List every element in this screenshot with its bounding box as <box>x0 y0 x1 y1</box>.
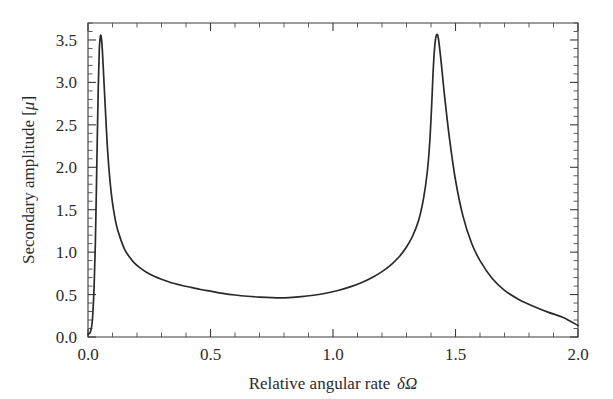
top-axis-ticks <box>88 23 578 31</box>
y-tick-label: 3.5 <box>56 31 77 50</box>
figure-container: 0.00.51.01.52.0 0.00.51.01.52.02.53.03.5… <box>0 0 613 399</box>
x-tick-label: 1.5 <box>445 345 466 364</box>
y-axis-major-ticks <box>88 40 96 337</box>
y-tick-label: 0.0 <box>56 328 77 347</box>
y-axis-tick-labels: 0.00.51.01.52.02.53.03.5 <box>56 31 77 347</box>
x-tick-label: 2.0 <box>567 345 588 364</box>
y-tick-label: 1.0 <box>56 243 77 262</box>
x-tick-label: 0.0 <box>77 345 98 364</box>
resonance-line-chart: 0.00.51.01.52.0 0.00.51.01.52.02.53.03.5… <box>0 0 613 399</box>
x-axis-tick-labels: 0.00.51.01.52.0 <box>77 345 588 364</box>
x-tick-label: 0.5 <box>200 345 221 364</box>
y-tick-label: 0.5 <box>56 286 77 305</box>
y-tick-label: 2.0 <box>56 158 77 177</box>
x-axis-title: Relative angular rate δΩ <box>249 374 418 393</box>
y-axis-title: Secondary amplitude [μ] <box>19 96 38 264</box>
data-series-group <box>88 34 578 334</box>
right-axis-ticks <box>570 23 578 337</box>
y-tick-label: 2.5 <box>56 116 77 135</box>
x-tick-label: 1.0 <box>322 345 343 364</box>
y-axis-minor-ticks <box>88 23 93 329</box>
y-tick-label: 3.0 <box>56 73 77 92</box>
series-line-secondary-amplitude <box>88 34 578 334</box>
y-tick-label: 1.5 <box>56 201 77 220</box>
